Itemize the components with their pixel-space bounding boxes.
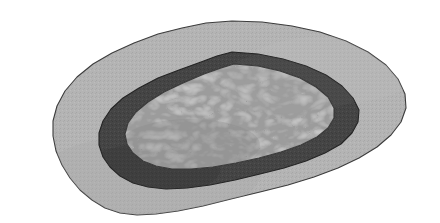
concentric-disc-illustration: Concentric zoned oval structure Oblique … bbox=[0, 0, 440, 223]
figure-container: Concentric zoned oval structure Oblique … bbox=[0, 0, 440, 223]
